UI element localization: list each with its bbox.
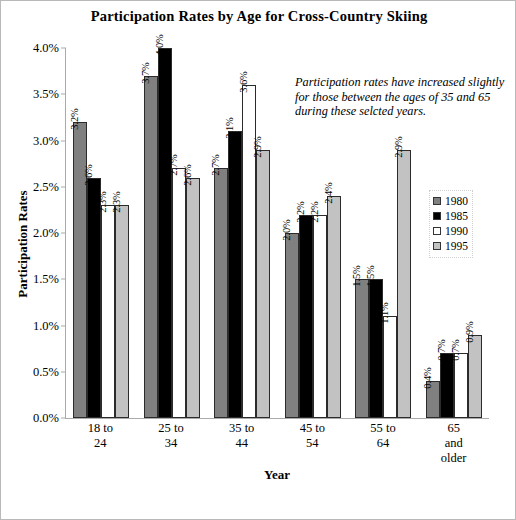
- bar-group: 3.7%4.0%2.7%2.6%: [137, 48, 208, 418]
- bar-value-label: 2.3%: [111, 192, 122, 213]
- bar-value-label: 2.4%: [322, 182, 333, 203]
- y-axis-title: Participation Rates: [15, 144, 31, 344]
- legend-swatch-icon: [433, 197, 441, 205]
- x-tick-label: 25 to34: [136, 421, 207, 466]
- x-tick-label: 18 to24: [65, 421, 136, 466]
- bar-value-label: 2.6%: [181, 164, 192, 185]
- bar-value-label: 2.0%: [280, 219, 291, 240]
- legend-label: 1990: [445, 224, 468, 238]
- chart-title: Participation Rates by Age for Cross-Cou…: [1, 8, 516, 25]
- bar-value-label: 3.6%: [238, 71, 249, 92]
- bar-value-label: 2.9%: [393, 136, 404, 157]
- bar-slot: 2.6%: [186, 48, 200, 418]
- bar-slot: 2.3%: [101, 48, 115, 418]
- bar-group-bars: 3.2%2.6%2.3%2.3%: [73, 48, 129, 418]
- bar[interactable]: [285, 233, 299, 418]
- bar-group-bars: 2.7%3.1%3.6%2.9%: [214, 48, 270, 418]
- bar-value-label: 2.9%: [252, 136, 263, 157]
- bar[interactable]: [313, 215, 327, 419]
- legend-item[interactable]: 1980: [433, 194, 468, 208]
- x-tick-label: 55 to64: [348, 421, 419, 466]
- legend-item[interactable]: 1990: [433, 224, 468, 238]
- bar-value-label: 3.7%: [139, 62, 150, 83]
- bar[interactable]: [242, 85, 256, 418]
- bar[interactable]: [186, 178, 200, 419]
- bar[interactable]: [299, 215, 313, 419]
- bar-slot: 2.3%: [115, 48, 129, 418]
- bar-value-label: 0.4%: [421, 367, 432, 388]
- bar-value-label: 1.5%: [365, 266, 376, 287]
- bar-value-label: 2.7%: [167, 155, 178, 176]
- chart-annotation: Participation rates have increased sligh…: [295, 75, 505, 119]
- bar-value-label: 2.2%: [294, 201, 305, 222]
- bar[interactable]: [144, 76, 158, 418]
- bar-group-bars: 3.7%4.0%2.7%2.6%: [144, 48, 200, 418]
- x-axis-title: Year: [65, 467, 489, 483]
- bar[interactable]: [397, 150, 411, 418]
- x-axis-ticks: 18 to2425 to3435 to4445 to5455 to6465and…: [65, 421, 489, 466]
- bar-slot: 3.2%: [73, 48, 87, 418]
- legend-swatch-icon: [433, 212, 441, 220]
- bar[interactable]: [383, 316, 397, 418]
- bar-slot: 3.6%: [242, 48, 256, 418]
- bar[interactable]: [87, 178, 101, 419]
- bar[interactable]: [101, 205, 115, 418]
- bar[interactable]: [172, 168, 186, 418]
- chart-figure: Participation Rates by Age for Cross-Cou…: [0, 0, 516, 520]
- bar[interactable]: [327, 196, 341, 418]
- bar-value-label: 0.9%: [463, 321, 474, 342]
- bar[interactable]: [115, 205, 129, 418]
- bar-value-label: 0.7%: [449, 340, 460, 361]
- x-tick-label: 65andolder: [418, 421, 489, 466]
- bar-value-label: 2.3%: [97, 192, 108, 213]
- bar[interactable]: [214, 168, 228, 418]
- legend-label: 1985: [445, 209, 468, 223]
- bar-slot: 4.0%: [158, 48, 172, 418]
- legend-label: 1995: [445, 239, 468, 253]
- bar-slot: 2.7%: [214, 48, 228, 418]
- bar-group: 2.7%3.1%3.6%2.9%: [207, 48, 278, 418]
- bar-value-label: 0.7%: [435, 340, 446, 361]
- bar-value-label: 4.0%: [153, 34, 164, 55]
- bar-value-label: 1.1%: [379, 303, 390, 324]
- bar-value-label: 3.2%: [69, 108, 80, 129]
- bar-group: 3.2%2.6%2.3%2.3%: [66, 48, 137, 418]
- bar-slot: 2.6%: [87, 48, 101, 418]
- bar-slot: 3.7%: [144, 48, 158, 418]
- bar-slot: 3.1%: [228, 48, 242, 418]
- bar-value-label: 2.2%: [308, 201, 319, 222]
- bar-value-label: 1.5%: [351, 266, 362, 287]
- bar[interactable]: [454, 353, 468, 418]
- legend: 1980198519901995: [429, 190, 473, 258]
- bar[interactable]: [369, 279, 383, 418]
- legend-swatch-icon: [433, 242, 441, 250]
- bar[interactable]: [440, 353, 454, 418]
- bar[interactable]: [468, 335, 482, 418]
- bar[interactable]: [355, 279, 369, 418]
- bar-value-label: 2.7%: [210, 155, 221, 176]
- legend-item[interactable]: 1985: [433, 209, 468, 223]
- x-tick-label: 45 to54: [277, 421, 348, 466]
- legend-item[interactable]: 1995: [433, 239, 468, 253]
- legend-swatch-icon: [433, 227, 441, 235]
- bar-value-label: 3.1%: [224, 118, 235, 139]
- bar-slot: 2.7%: [172, 48, 186, 418]
- bar[interactable]: [158, 48, 172, 418]
- bar-value-label: 2.6%: [83, 164, 94, 185]
- bar-slot: 2.9%: [256, 48, 270, 418]
- legend-label: 1980: [445, 194, 468, 208]
- bar[interactable]: [256, 150, 270, 418]
- bar[interactable]: [228, 131, 242, 418]
- x-tick-label: 35 to44: [206, 421, 277, 466]
